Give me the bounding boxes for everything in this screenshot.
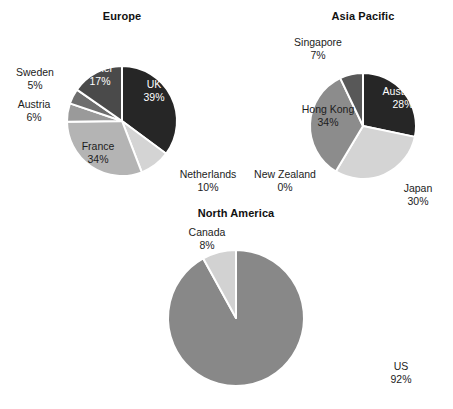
slice-label-france-value: 34%: [71, 153, 125, 166]
slice-label-uk-value: 39%: [134, 91, 174, 104]
slice-label-singapore: Singapore 7%: [283, 36, 353, 61]
slice-label-australia: Australia 28%: [373, 85, 433, 110]
chart-title-europe: Europe: [74, 10, 170, 22]
slice-label-netherlands-value: 10%: [167, 181, 249, 194]
chart-title-north-america: North America: [188, 207, 284, 219]
slice-label-hong-kong-name: Hong Kong: [294, 103, 362, 116]
slice-label-us-name: US: [384, 360, 418, 373]
slice-label-australia-value: 28%: [373, 98, 433, 111]
slice-label-other: Other 17%: [79, 62, 121, 87]
slice-label-new-zealand-value: 0%: [245, 181, 325, 194]
slice-label-japan-name: Japan: [395, 182, 441, 195]
slice-label-singapore-value: 7%: [283, 49, 353, 62]
slice-label-new-zealand: New Zealand 0%: [245, 168, 325, 193]
slice-label-australia-name: Australia: [373, 85, 433, 98]
slice-label-netherlands-name: Netherlands: [167, 168, 249, 181]
slice-label-austria-value: 6%: [8, 111, 60, 124]
slice-label-other-name: Other: [79, 62, 121, 75]
slice-label-hong-kong-value: 34%: [294, 116, 362, 129]
slice-label-singapore-name: Singapore: [283, 36, 353, 49]
slice-label-japan-value: 30%: [395, 195, 441, 208]
slice-label-us-value: 92%: [384, 373, 418, 386]
slice-label-us: US 92%: [384, 360, 418, 385]
slice-label-austria: Austria 6%: [8, 98, 60, 123]
slice-label-japan: Japan 30%: [395, 182, 441, 207]
slice-label-netherlands: Netherlands 10%: [167, 168, 249, 193]
slice-label-uk-name: UK: [134, 78, 174, 91]
slice-label-canada-value: 8%: [180, 239, 234, 252]
slice-label-canada: Canada 8%: [180, 226, 234, 251]
slice-label-other-value: 17%: [79, 75, 121, 88]
pie-slices-canvas: [0, 0, 453, 409]
pie-group-north-america: [168, 250, 304, 386]
slice-label-sweden-value: 5%: [6, 79, 64, 92]
slice-label-france: France 34%: [71, 140, 125, 165]
slice-label-sweden-name: Sweden: [6, 66, 64, 79]
slice-label-france-name: France: [71, 140, 125, 153]
slice-label-hong-kong: Hong Kong 34%: [294, 103, 362, 128]
slice-label-austria-name: Austria: [8, 98, 60, 111]
slice-label-new-zealand-name: New Zealand: [245, 168, 325, 181]
chart-title-asia-pacific: Asia Pacific: [315, 10, 411, 22]
pie-chart-figure: Europe UK 39% Netherlands 10% France 34%…: [0, 0, 453, 409]
slice-label-sweden: Sweden 5%: [6, 66, 64, 91]
slice-label-uk: UK 39%: [134, 78, 174, 103]
slice-label-canada-name: Canada: [180, 226, 234, 239]
